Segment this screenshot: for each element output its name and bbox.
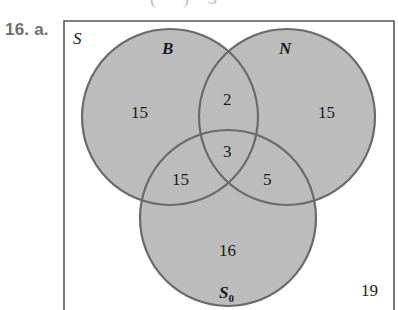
region-n-only: 15 (318, 103, 335, 122)
region-b-and-s0: 15 (172, 170, 189, 189)
region-b-n-s0: 3 (223, 142, 232, 161)
set-circles-fill (82, 29, 375, 306)
set-s0-label-main: S (219, 283, 228, 302)
set-n-label: N (278, 39, 292, 58)
region-n-and-s0: 5 (263, 170, 272, 189)
universe-label: S (73, 29, 82, 48)
region-b-and-n: 2 (223, 90, 232, 109)
set-b-label: B (161, 39, 173, 58)
region-s0-only: 16 (219, 241, 236, 260)
set-s0-label-subscript: 0 (228, 292, 234, 304)
region-b-only: 15 (131, 103, 148, 122)
region-outside: 19 (361, 281, 378, 300)
venn-diagram: S B N S0 15 15 2 3 15 5 16 19 (0, 0, 398, 310)
